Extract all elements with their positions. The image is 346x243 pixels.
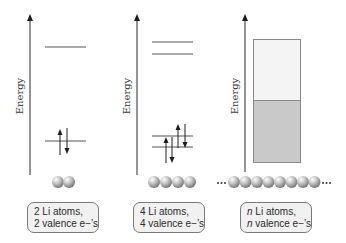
li-atom [148, 176, 160, 188]
axis-arrow-icon [134, 14, 140, 21]
li-atom [309, 176, 321, 188]
li-atoms-row [148, 176, 196, 188]
label-four-atoms: 4 Li atoms, 4 valence e−’s [133, 202, 205, 233]
label-line-electrons: n valence e−’s [247, 218, 311, 230]
panel-four-atoms: Energy [121, 14, 196, 188]
label-two-atoms: 2 Li atoms, 2 valence e−’s [27, 202, 99, 233]
ellipsis-right [322, 182, 331, 184]
li-atom [172, 176, 184, 188]
li-atom [240, 176, 252, 188]
label-n-atoms: n Li atoms, n valence e−’s [240, 202, 312, 233]
energy-axis-label: Energy [229, 77, 240, 114]
label-line-atoms: 2 Li atoms, [34, 206, 98, 218]
li-atom [228, 176, 240, 188]
li-atom [286, 176, 298, 188]
axis-arrow-icon [27, 14, 33, 21]
li-atom [52, 176, 64, 188]
axis-arrow-icon [242, 14, 248, 21]
li-atom [184, 176, 196, 188]
li-atoms-row [52, 176, 75, 188]
electron-pair-lower [164, 137, 175, 163]
label-line-electrons: 2 valence e−’s [34, 218, 98, 230]
li-atom [251, 176, 263, 188]
li-atom [274, 176, 286, 188]
li-atom [160, 176, 172, 188]
label-line-atoms: 4 Li atoms, [140, 206, 204, 218]
panel-two-atoms: Energy [14, 14, 86, 188]
label-line-atoms: n Li atoms, [247, 206, 311, 218]
li-atom [63, 176, 75, 188]
li-atom [263, 176, 275, 188]
filled-band [254, 101, 301, 163]
ellipsis-left [217, 182, 226, 184]
panel-n-atoms: Energy [217, 14, 331, 188]
li-atoms-row [228, 176, 321, 188]
empty-band [254, 40, 301, 101]
li-atom [297, 176, 309, 188]
energy-axis-label: Energy [121, 77, 132, 114]
label-line-electrons: 4 valence e−’s [140, 218, 204, 230]
energy-axis-label: Energy [14, 77, 25, 114]
